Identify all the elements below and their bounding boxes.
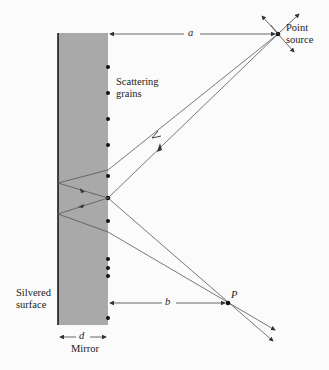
mirror-label: Mirror xyxy=(71,343,99,355)
point-source-label-line1: Point xyxy=(286,22,308,33)
ray-arrow-in xyxy=(152,131,161,138)
point-p-label: P xyxy=(231,289,237,301)
mirror-body xyxy=(58,33,108,325)
point-source-label-line2: source xyxy=(286,34,313,45)
thickness-d-label: d xyxy=(79,330,84,342)
distance-b-label: b xyxy=(165,296,170,308)
ray-arrow-out xyxy=(157,143,162,152)
scattering-label-line1: Scattering xyxy=(116,76,159,87)
scattering-label-line2: grains xyxy=(116,88,142,99)
point-source-label: Point source xyxy=(286,22,313,46)
distance-a-label: a xyxy=(188,27,193,39)
scattering-mirror-diagram: Point source Scattering grains Silvered … xyxy=(0,0,329,370)
scattering-grains-label: Scattering grains xyxy=(116,76,159,100)
silvered-label-line2: surface xyxy=(16,299,46,310)
diagram-graphics xyxy=(0,0,329,370)
silvered-label-line1: Silvered xyxy=(16,287,51,298)
point-p xyxy=(226,301,231,306)
silvered-surface-label: Silvered surface xyxy=(16,287,51,311)
